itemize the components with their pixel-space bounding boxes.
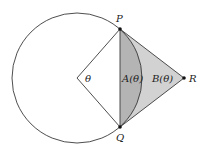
label-p: P bbox=[115, 13, 123, 24]
circle-tangent-diagram: P Q R θ A(θ) B(θ) bbox=[0, 0, 206, 144]
label-a-theta: A(θ) bbox=[121, 73, 143, 84]
label-r: R bbox=[188, 73, 197, 84]
point-p bbox=[118, 27, 122, 31]
point-r bbox=[182, 76, 186, 80]
radius-op bbox=[77, 29, 120, 78]
label-theta: θ bbox=[85, 73, 91, 84]
label-b-theta: B(θ) bbox=[151, 73, 173, 84]
label-q: Q bbox=[116, 132, 124, 143]
point-q bbox=[118, 125, 122, 129]
radius-oq bbox=[77, 78, 120, 127]
